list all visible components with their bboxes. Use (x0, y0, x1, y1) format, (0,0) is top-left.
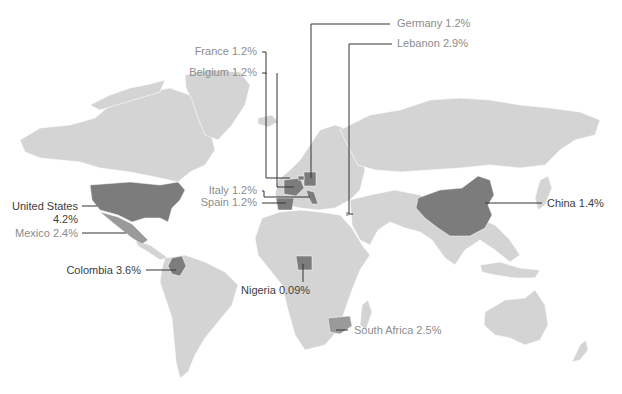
leader-france (262, 52, 290, 178)
label-china: China 1.4% (547, 197, 604, 210)
world-map (0, 0, 622, 394)
label-south-africa: South Africa 2.5% (354, 324, 441, 337)
label-spain: Spain 1.2% (180, 196, 257, 209)
australia (484, 290, 548, 345)
base-land (20, 70, 600, 378)
label-germany: Germany 1.2% (397, 17, 470, 30)
label-belgium: Belgium 1.2% (150, 66, 257, 79)
label-colombia: Colombia 3.6% (40, 264, 141, 277)
country-south-africa[interactable] (328, 316, 352, 334)
label-united-states-value: 4.2% (0, 213, 78, 226)
country-united-states[interactable] (90, 182, 185, 222)
label-united-states: United States 4.2% (0, 200, 78, 226)
label-nigeria: Nigeria 0.09% (241, 284, 310, 297)
label-mexico: Mexico 2.4% (0, 227, 78, 240)
label-united-states-name: United States (0, 200, 78, 213)
label-france: France 1.2% (160, 45, 257, 58)
country-nigeria[interactable] (296, 256, 312, 270)
iceland (258, 115, 278, 127)
label-lebanon: Lebanon 2.9% (397, 37, 468, 50)
country-germany[interactable] (304, 172, 316, 186)
country-belgium[interactable] (298, 176, 304, 180)
africa (255, 210, 370, 350)
russia (340, 98, 600, 172)
country-spain[interactable] (276, 198, 294, 210)
leader-belgium (262, 73, 266, 74)
new-zealand (572, 340, 588, 362)
indonesia (480, 262, 540, 278)
